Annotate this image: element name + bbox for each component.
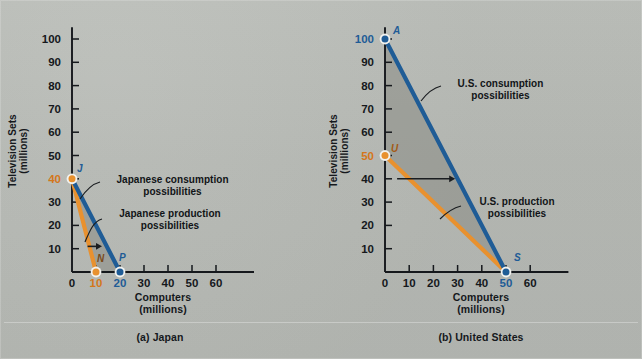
annotation-japanese-production: Japanese production possibilities xyxy=(105,208,235,231)
svg-text:0: 0 xyxy=(69,277,75,289)
svg-text:90: 90 xyxy=(361,56,374,68)
svg-text:70: 70 xyxy=(48,103,61,115)
y-axis-title-us: Television Sets (millions) xyxy=(328,101,350,201)
point-label-A: A xyxy=(393,25,400,36)
svg-text:30: 30 xyxy=(451,277,464,289)
svg-text:40: 40 xyxy=(361,173,374,185)
svg-text:30: 30 xyxy=(138,277,151,289)
svg-text:10: 10 xyxy=(48,243,61,255)
svg-text:20: 20 xyxy=(427,277,440,289)
point-label-U: U xyxy=(391,143,398,154)
point-label-J: J xyxy=(77,163,83,174)
svg-text:40: 40 xyxy=(48,173,61,185)
svg-text:70: 70 xyxy=(361,103,374,115)
svg-text:0: 0 xyxy=(382,277,388,289)
svg-text:10: 10 xyxy=(361,243,374,255)
svg-text:60: 60 xyxy=(210,277,223,289)
svg-text:50: 50 xyxy=(48,150,61,162)
svg-text:80: 80 xyxy=(361,80,374,92)
x-axis-title-japan: Computers (millions) xyxy=(103,291,223,315)
annotation-japanese-consumption: Japanese consumption possibilities xyxy=(105,174,240,197)
svg-text:30: 30 xyxy=(48,196,61,208)
svg-text:40: 40 xyxy=(162,277,175,289)
y-axis-title-japan: Television Sets (millions) xyxy=(7,101,29,201)
x-axis-title-us: Computers (millions) xyxy=(421,291,541,315)
svg-text:80: 80 xyxy=(48,80,61,92)
caption-united-states: (b) United States xyxy=(381,331,581,343)
figure-root: 1020304050607080901000102030405060 Telev… xyxy=(0,0,642,359)
svg-text:20: 20 xyxy=(114,277,127,289)
svg-text:60: 60 xyxy=(48,126,61,138)
svg-text:30: 30 xyxy=(361,196,374,208)
svg-text:100: 100 xyxy=(355,33,374,45)
svg-text:10: 10 xyxy=(90,277,103,289)
svg-text:20: 20 xyxy=(48,219,61,231)
svg-text:60: 60 xyxy=(524,277,537,289)
point-label-N: N xyxy=(97,253,104,264)
svg-text:50: 50 xyxy=(500,277,513,289)
svg-text:90: 90 xyxy=(48,56,61,68)
panel-united-states: 1020304050607080901000102030405060 Telev… xyxy=(321,0,642,359)
svg-text:50: 50 xyxy=(361,150,374,162)
annotation-us-consumption: U.S. consumption possibilities xyxy=(443,78,558,101)
point-label-S: S xyxy=(514,252,521,263)
svg-text:100: 100 xyxy=(42,33,61,45)
svg-text:40: 40 xyxy=(475,277,488,289)
svg-text:20: 20 xyxy=(361,219,374,231)
panel-japan: 1020304050607080901000102030405060 Telev… xyxy=(0,0,321,359)
point-label-P: P xyxy=(119,252,126,263)
svg-text:50: 50 xyxy=(186,277,199,289)
svg-text:60: 60 xyxy=(361,126,374,138)
svg-text:10: 10 xyxy=(403,277,416,289)
annotation-us-production: U.S. production possibilities xyxy=(463,196,571,219)
caption-japan: (a) Japan xyxy=(60,331,260,343)
